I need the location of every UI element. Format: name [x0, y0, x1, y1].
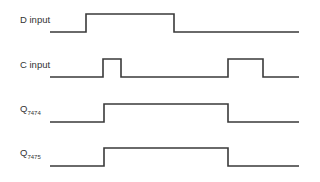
waveform-d-input: [50, 14, 299, 32]
timing-diagram: [0, 0, 320, 182]
waveform-q7475: [50, 148, 299, 166]
waveform-q7474: [50, 104, 299, 122]
waveform-c-input: [50, 59, 299, 77]
